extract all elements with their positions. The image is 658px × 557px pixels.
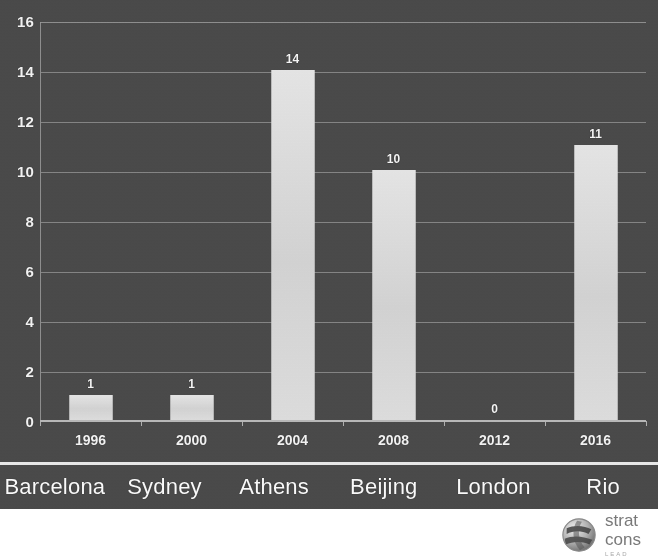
plot-area: 111410011	[40, 22, 646, 422]
city-label-london: London	[439, 474, 549, 500]
bar-value-label: 11	[589, 128, 602, 140]
city-label-athens: Athens	[219, 474, 329, 500]
year-label-2000: 2000	[141, 433, 242, 447]
bar-slot: 11	[545, 22, 646, 422]
bar-value-label: 1	[87, 378, 94, 390]
y-tick-label-12: 12	[4, 114, 34, 129]
bar-slot: 1	[141, 22, 242, 422]
y-tick-label-16: 16	[4, 14, 34, 29]
logo-wordmark: strat cons LEAD	[605, 512, 641, 557]
x-axis-city-labels: BarcelonaSydneyAthensBeijingLondonRio	[0, 465, 658, 509]
year-label-2016: 2016	[545, 433, 646, 447]
logo-line-2: cons	[605, 531, 641, 548]
bar-slot: 14	[242, 22, 343, 422]
x-axis-baseline	[40, 420, 646, 422]
bar-value-label: 0	[491, 403, 498, 415]
bar[interactable]	[271, 70, 314, 420]
y-tick-label-10: 10	[4, 164, 34, 179]
city-label-sydney: Sydney	[110, 474, 220, 500]
footer: strat cons LEAD	[0, 509, 658, 557]
city-label-beijing: Beijing	[329, 474, 439, 500]
logo-line-1: strat	[605, 512, 641, 529]
bar-slot: 0	[444, 22, 545, 422]
x-axis-year-labels: 199620002004200820122016	[0, 424, 658, 462]
bar-slot: 1	[40, 22, 141, 422]
city-label-barcelona: Barcelona	[0, 474, 110, 500]
globe-swirl-logo-icon	[560, 516, 598, 554]
year-label-2008: 2008	[343, 433, 444, 447]
bar[interactable]	[69, 395, 112, 420]
city-label-rio: Rio	[548, 474, 658, 500]
bar-value-label: 1	[188, 378, 195, 390]
logo-line-3: LEAD	[605, 551, 641, 557]
y-tick-label-8: 8	[4, 214, 34, 229]
company-logo: strat cons LEAD	[560, 512, 658, 557]
bar[interactable]	[574, 145, 617, 420]
bar[interactable]	[170, 395, 213, 420]
bar[interactable]	[372, 170, 415, 420]
chart-panel: 111410011 0246810121416 1996200020042008…	[0, 0, 658, 462]
bar-chart-figure: 111410011 0246810121416 1996200020042008…	[0, 0, 658, 557]
y-tick-label-4: 4	[4, 314, 34, 329]
y-tick-label-6: 6	[4, 264, 34, 279]
bar-slot: 10	[343, 22, 444, 422]
y-tick-label-2: 2	[4, 364, 34, 379]
year-label-2004: 2004	[242, 433, 343, 447]
bar-value-label: 10	[387, 153, 400, 165]
y-tick-label-14: 14	[4, 64, 34, 79]
year-label-2012: 2012	[444, 433, 545, 447]
year-label-1996: 1996	[40, 433, 141, 447]
bar-value-label: 14	[286, 53, 299, 65]
